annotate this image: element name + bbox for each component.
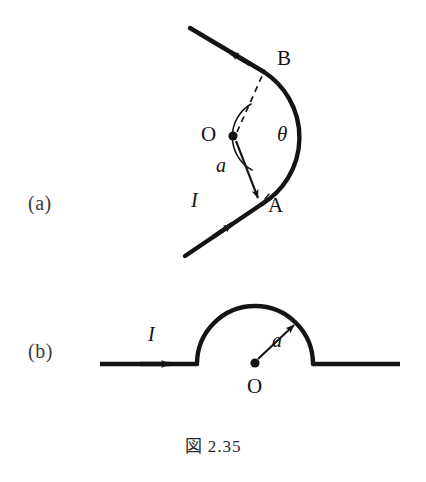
point-label-A: A [268, 195, 283, 216]
panel-label-b: (b) [28, 340, 53, 363]
panel-b-drawing [100, 306, 400, 368]
radius-label-a-panel-b: a [272, 330, 282, 350]
center-label-O-a: O [201, 124, 216, 145]
angle-label-theta: θ [277, 124, 287, 145]
semicircle-wire-b [197, 306, 313, 364]
radius-arrow-OA [236, 141, 258, 198]
current-arrow-out-a [230, 52, 250, 64]
radius-label-a-panel-a: a [216, 155, 226, 175]
current-label-I-panel-a: I [191, 190, 198, 210]
figure-drawing [0, 0, 426, 482]
point-label-B: B [277, 48, 291, 69]
current-arrow-a [213, 224, 232, 237]
wire-lead-out-a [190, 28, 264, 72]
current-label-I-panel-b: I [148, 324, 155, 344]
panel-label-a: (a) [28, 192, 52, 215]
figure-root: (a) (b) B O θ a I A I a O 図 2.35 [0, 0, 426, 482]
center-label-O-b: O [247, 376, 262, 397]
center-point-O-b [250, 358, 259, 367]
center-point-O-a [228, 131, 237, 140]
figure-caption: 図 2.35 [0, 432, 426, 457]
